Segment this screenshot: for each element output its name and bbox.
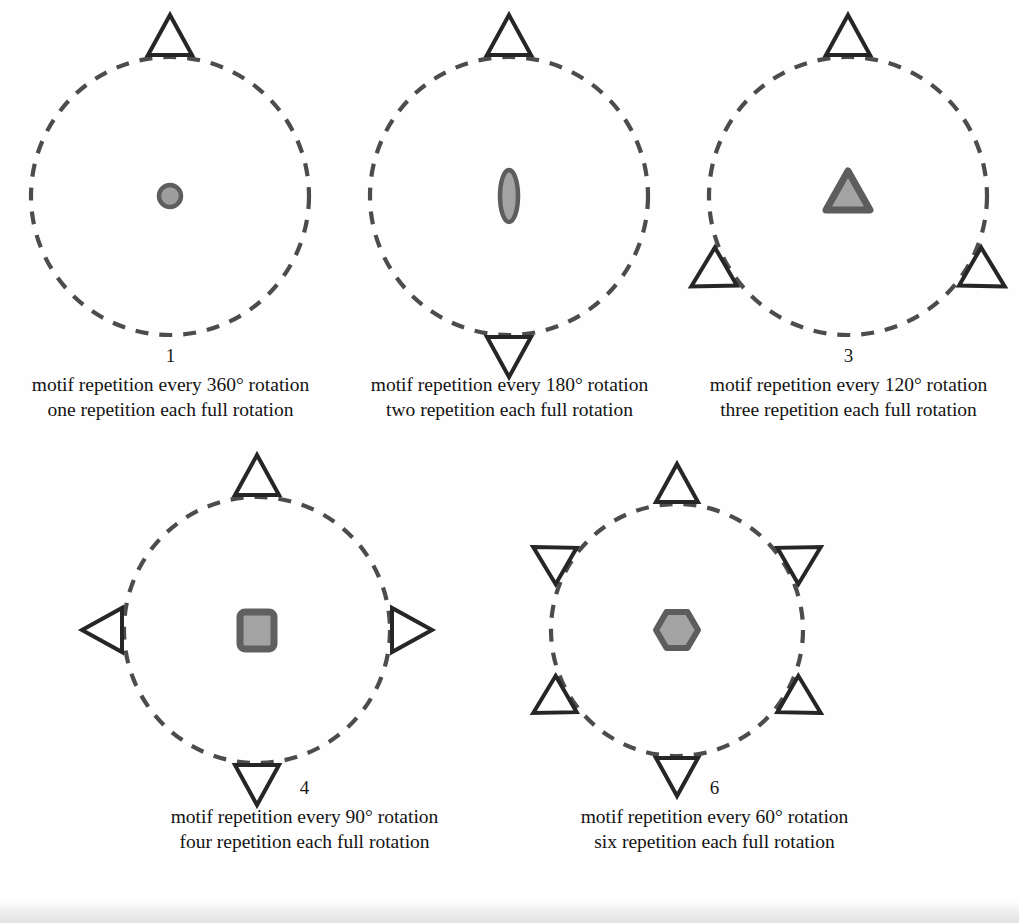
- marker-triangle: [82, 608, 122, 652]
- panel-3: 3 motif repetition every 120° rotation t…: [679, 18, 1018, 423]
- marker-triangle: [235, 455, 279, 495]
- panel-2-diagram: [340, 18, 679, 348]
- figure-sheet: 1 motif repetition every 360° rotation o…: [0, 0, 1019, 923]
- panel-caption: motif repetition every 90° rotation four…: [171, 805, 439, 855]
- marker-triangle: [487, 337, 531, 377]
- caption-line-2: one repetition each full rotation: [32, 398, 309, 423]
- marker-triangle: [392, 608, 432, 652]
- panel-row-bottom: 4 motif repetition every 90° rotation fo…: [0, 462, 1019, 855]
- marker-triangle: [487, 15, 531, 55]
- marker-triangle: [777, 676, 831, 731]
- panel-index-label: 6: [710, 778, 720, 797]
- panel-3-diagram: [679, 18, 1018, 348]
- marker-triangle: [777, 529, 831, 584]
- panel-index-label: 3: [844, 346, 854, 365]
- caption-line-2: six repetition each full rotation: [581, 830, 849, 855]
- marker-triangle: [959, 247, 1016, 305]
- panel-index-label: 1: [166, 346, 176, 365]
- panel-1-diagram: [1, 18, 340, 348]
- panel-caption: motif repetition every 60° rotation six …: [581, 805, 849, 855]
- caption-line-2: two repetition each full rotation: [371, 398, 648, 423]
- marker-triangle: [656, 758, 698, 796]
- panel-6: 6 motif repetition every 60° rotation si…: [510, 462, 920, 855]
- marker-triangle-group: [148, 15, 192, 55]
- caption-line-1: motif repetition every 60° rotation: [581, 805, 849, 830]
- panel-index-label: 4: [300, 778, 310, 797]
- panel-2: 2 motif repetition every 180° rotation t…: [340, 18, 679, 423]
- panel-1: 1 motif repetition every 360° rotation o…: [1, 18, 340, 423]
- center-motif-square: [240, 612, 274, 649]
- center-motif-ellipse: [500, 170, 518, 222]
- caption-line-1: motif repetition every 120° rotation: [710, 373, 987, 398]
- page-bottom-shading-band: [0, 901, 1019, 923]
- panel-6-diagram: [510, 462, 920, 780]
- panel-4: 4 motif repetition every 90° rotation fo…: [100, 462, 510, 855]
- center-motif-hexagon: [656, 612, 698, 648]
- panel-4-diagram: [100, 462, 510, 780]
- center-motif-triangle: [826, 171, 870, 210]
- panel-caption: motif repetition every 120° rotation thr…: [710, 373, 987, 423]
- caption-line-2: three repetition each full rotation: [710, 398, 987, 423]
- panel-caption: motif repetition every 180° rotation two…: [371, 373, 648, 423]
- marker-triangle: [680, 247, 737, 305]
- marker-triangle: [235, 765, 279, 805]
- marker-triangle: [826, 15, 870, 55]
- center-motif-circle: [159, 185, 181, 207]
- caption-line-2: four repetition each full rotation: [171, 830, 439, 855]
- marker-triangle: [656, 464, 698, 502]
- caption-line-1: motif repetition every 360° rotation: [32, 373, 309, 398]
- marker-triangle: [522, 676, 576, 731]
- panel-caption: motif repetition every 360° rotation one…: [32, 373, 309, 423]
- panel-row-top: 1 motif repetition every 360° rotation o…: [0, 18, 1019, 423]
- marker-triangle: [148, 15, 192, 55]
- marker-triangle: [522, 529, 576, 584]
- caption-line-1: motif repetition every 90° rotation: [171, 805, 439, 830]
